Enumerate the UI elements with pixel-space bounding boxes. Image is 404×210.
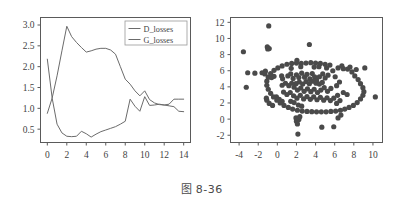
scatter-point	[337, 79, 342, 84]
scatter-point	[296, 75, 301, 80]
loss-chart-svg: 0.51.01.52.02.53.0 02468101214 D_lossesG…	[0, 0, 202, 178]
loss-x-tick: 14	[179, 150, 189, 160]
scatter-point	[328, 109, 333, 114]
loss-x-tick: 12	[159, 150, 169, 160]
loss-y-tick: 2.0	[23, 62, 35, 72]
scatter-x-tick: -2	[254, 150, 262, 160]
scatter-point	[280, 76, 285, 81]
scatter-point	[295, 108, 300, 113]
loss-x-tick: 10	[140, 150, 150, 160]
legend-label-d_losses: D_losses	[144, 25, 174, 34]
loss-x-tick: 4	[84, 150, 89, 160]
scatter-point	[347, 65, 352, 70]
scatter-point	[325, 73, 330, 78]
scatter-y-tick: 10	[215, 34, 225, 44]
line-d-losses	[47, 59, 183, 137]
loss-x-tick: 2	[64, 150, 69, 160]
scatter-x-tick: 8	[351, 150, 356, 160]
scatter-points-group	[241, 23, 378, 136]
scatter-point	[338, 108, 343, 113]
loss-x-tick: 8	[123, 150, 128, 160]
caption-number: 8-36	[196, 183, 223, 196]
scatter-point	[314, 109, 319, 114]
scatter-point	[319, 125, 324, 130]
scatter-chart-svg: -2024681012 -4-20246810	[200, 0, 404, 178]
loss-y-axis-tick-labels: 0.51.01.52.02.53.0	[23, 20, 35, 134]
loss-chart-legend[interactable]: D_lossesG_losses	[125, 21, 187, 45]
scatter-point	[333, 108, 338, 113]
scatter-y-tick: -2	[217, 131, 225, 141]
scatter-x-axis-tick-labels: -4-20246810	[235, 150, 378, 160]
scatter-point	[316, 64, 321, 69]
scatter-point	[345, 92, 350, 97]
scatter-point	[324, 109, 329, 114]
scatter-point	[334, 101, 339, 106]
scatter-point	[281, 90, 286, 95]
loss-y-tick: 3.0	[23, 20, 35, 30]
scatter-point	[270, 103, 275, 108]
scatter-point	[284, 62, 289, 67]
loss-y-tick: 1.0	[23, 104, 35, 114]
scatter-point	[295, 121, 300, 126]
scatter-point	[289, 66, 294, 71]
loss-curve-chart: 0.51.01.52.02.53.0 02468101214 D_lossesG…	[0, 0, 202, 178]
scatter-x-tick: 6	[332, 150, 337, 160]
scatter-point	[308, 60, 313, 65]
scatter-point	[354, 67, 359, 72]
loss-y-tick: 1.5	[23, 83, 35, 93]
scatter-point	[335, 93, 340, 98]
scatter-point	[241, 49, 246, 54]
scatter-point	[328, 86, 333, 91]
scatter-point	[312, 65, 317, 70]
scatter-y-tick: 0	[220, 115, 225, 125]
scatter-y-axis-tick-labels: -2024681012	[215, 18, 225, 141]
scatter-point	[304, 72, 309, 77]
scatter-point	[330, 68, 335, 73]
loss-y-tick: 0.5	[23, 125, 35, 135]
scatter-point	[244, 85, 249, 90]
scatter-point	[339, 63, 344, 68]
scatter-point	[362, 65, 367, 70]
scatter-point	[252, 71, 257, 76]
scatter-y-tick: 12	[215, 18, 225, 28]
scatter-point	[245, 70, 250, 75]
scatter-point	[304, 109, 309, 114]
scatter-point	[267, 46, 272, 51]
scatter-point	[288, 71, 293, 76]
scatter-point	[319, 109, 324, 114]
scatter-x-tick: 4	[313, 150, 318, 160]
scatter-point	[331, 124, 336, 129]
loss-x-axis-tick-labels: 02468101214	[45, 150, 189, 160]
loss-y-tick: 2.5	[23, 41, 35, 51]
legend-label-g_losses: G_losses	[144, 36, 174, 45]
scatter-y-tick: 8	[220, 50, 225, 60]
scatter-x-tick: -4	[235, 150, 243, 160]
figure-caption: 图8-36	[0, 180, 404, 196]
scatter-chart: -2024681012 -4-20246810	[200, 0, 404, 178]
scatter-point	[294, 58, 299, 63]
scatter-point	[309, 109, 314, 114]
scatter-point	[320, 80, 325, 85]
loss-x-tick: 6	[103, 150, 108, 160]
scatter-point	[324, 65, 329, 70]
scatter-point	[264, 96, 269, 101]
scatter-point	[299, 104, 304, 109]
scatter-y-tick: 2	[220, 98, 225, 108]
scatter-point	[373, 94, 378, 99]
caption-prefix: 图	[181, 183, 193, 196]
scatter-y-tick: 6	[220, 66, 225, 76]
scatter-point	[298, 64, 303, 69]
scatter-point	[335, 115, 340, 120]
scatter-x-tick: 0	[275, 150, 280, 160]
figure-container: 0.51.01.52.02.53.0 02468101214 D_lossesG…	[0, 0, 404, 210]
scatter-point	[307, 42, 312, 47]
scatter-point	[295, 131, 300, 136]
scatter-point	[300, 108, 305, 113]
scatter-point	[289, 61, 294, 66]
scatter-point	[333, 74, 338, 79]
scatter-x-tick: 2	[294, 150, 299, 160]
scatter-y-tick: 4	[220, 82, 225, 92]
scatter-point	[297, 114, 302, 119]
loss-x-tick: 0	[45, 150, 50, 160]
scatter-point	[266, 23, 271, 28]
